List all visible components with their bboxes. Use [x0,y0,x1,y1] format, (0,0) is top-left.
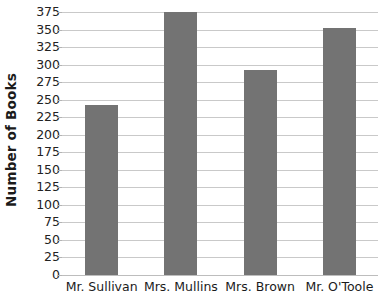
y-axis-tick-label: 200 [24,129,60,141]
y-axis-tick-label: 275 [24,76,60,88]
y-axis-tick-labels: 0255075100125150175200225250275300325350… [24,0,60,283]
y-axis-title-label: Number of Books [3,73,19,207]
y-axis-tick-label: 350 [24,24,60,36]
plot-area [62,0,379,283]
x-axis-tick-label: Mr. Sullivan [62,279,141,294]
bars [62,0,379,283]
bar [244,70,277,275]
y-axis-tick-label: 300 [24,59,60,71]
y-axis-tick-label: 25 [24,251,60,263]
bar-chart: Number of Books 025507510012515017520022… [0,0,379,303]
y-axis-tick-label: 375 [24,6,60,18]
y-axis-tick-label: 175 [24,146,60,158]
y-axis-tick-label: 225 [24,111,60,123]
y-axis-tick-label: 150 [24,164,60,176]
x-axis-tick-label: Mr. O'Toole [300,279,379,294]
bar [164,12,197,275]
y-axis-title: Number of Books [0,0,22,280]
bar [85,105,118,275]
y-axis-tick-label: 100 [24,199,60,211]
x-axis-tick-label: Mrs. Mullins [141,279,220,294]
y-axis-tick-label: 75 [24,216,60,228]
y-axis-tick-label: 325 [24,41,60,53]
y-axis-tick-label: 125 [24,181,60,193]
y-axis-tick-label: 0 [24,269,60,281]
y-axis-tick-label: 250 [24,94,60,106]
y-axis-tick-label: 50 [24,234,60,246]
x-axis-tick-label: Mrs. Brown [221,279,300,294]
x-axis-tick-labels: Mr. SullivanMrs. MullinsMrs. BrownMr. O'… [62,279,379,303]
bar [323,28,356,275]
